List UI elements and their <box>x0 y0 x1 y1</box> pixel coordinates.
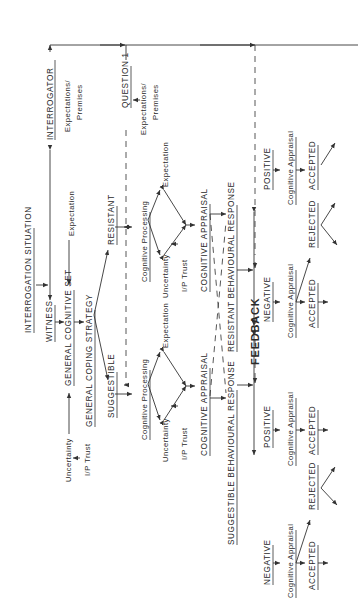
res-neg-accepted-label: ACCEPTED <box>308 279 317 328</box>
res-cognitive-appraisal-label: COGNITIVE APPRAISAL <box>200 188 209 292</box>
interrogation-situation-label: INTERROGATION SITUATION <box>24 206 33 333</box>
question-expectations-label: Expectations/ <box>139 83 148 135</box>
res-negative-label: NEGATIVE <box>263 276 272 322</box>
question-1-label: QUESTION 1 <box>121 52 130 108</box>
resistant-behavioural-response-label: RESISTANT BEHAVIOURAL RESPONSE <box>227 181 236 352</box>
interrogator-label: INTERROGATOR <box>46 68 55 140</box>
sugg-cognitive-processing-label: Cognitive Processing <box>140 359 149 440</box>
labels: INTERROGATOR Expectations/ Premises INTE… <box>24 52 318 598</box>
res-neg-appraisal-label: Cognitive Appraisal <box>286 263 295 338</box>
gcs-ip-trust-label: I/P Trust <box>83 443 92 476</box>
general-cognitive-set-label: GENERAL COGNITIVE SET <box>64 269 73 386</box>
suggestible-label: SUGGESTIBLE <box>107 354 116 418</box>
sugg-negative-label: NEGATIVE <box>263 539 272 585</box>
sugg-expectation-label: Expectation <box>161 303 170 348</box>
interrogator-premises-label: Premises <box>75 84 84 120</box>
interrogator-expectations-label: Expectations/ <box>63 80 72 132</box>
sugg-positive-label: POSITIVE <box>263 405 272 448</box>
sugg-cognitive-appraisal-label: COGNITIVE APPRAISAL <box>200 352 209 456</box>
res-neg-rejected-label: REJECTED <box>308 200 317 248</box>
gcs-uncertainty-label: Uncertainty <box>64 438 73 482</box>
res-expectation-label: Expectation <box>161 142 170 187</box>
sugg-uncertainty-label: Uncertainty <box>161 418 170 462</box>
res-ip-trust-label: I/P Trust <box>180 259 189 292</box>
sugg-pos-appraisal-label: Cognitive Appraisal <box>286 391 295 466</box>
res-uncertainty-label: Uncertainty <box>161 254 170 298</box>
feedback-label: FEEDBACK <box>249 297 261 365</box>
resistant-label: RESISTANT <box>107 194 116 245</box>
suggestibility-model-diagram: INTERROGATOR Expectations/ Premises INTE… <box>0 0 358 613</box>
general-coping-strategy-label: GENERAL COPING STRATEGY <box>85 294 94 427</box>
suggestible-behavioural-response-label: SUGGESTIBLE BEHAVIOURAL RESPONSE <box>227 361 236 545</box>
sugg-neg-rejected-label: REJECTED <box>308 462 317 510</box>
sugg-neg-accepted-label: ACCEPTED <box>308 541 317 590</box>
res-positive-label: POSITIVE <box>263 147 272 190</box>
gcs-expectation-label: Expectation <box>67 191 76 236</box>
witness-label: WITNESS <box>45 301 54 343</box>
sugg-pos-accepted-label: ACCEPTED <box>308 406 317 455</box>
sugg-ip-trust-label: I/P Trust <box>180 427 189 460</box>
res-pos-appraisal-label: Cognitive Appraisal <box>286 130 295 205</box>
sugg-neg-appraisal-label: Cognitive Appraisal <box>286 523 295 598</box>
res-pos-accepted-label: ACCEPTED <box>308 141 317 190</box>
question-premises-label: Premises <box>151 84 160 120</box>
res-cognitive-processing-label: Cognitive Processing <box>140 201 149 282</box>
